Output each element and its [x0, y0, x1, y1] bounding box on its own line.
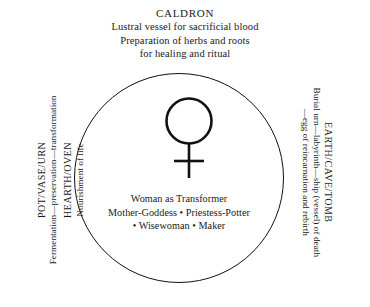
right-axis-sub-egg-rebirth: —egg of reincarnation and rebirth [300, 67, 311, 277]
right-axis-label: EARTH/CAVE/TOMB Burial urn—labyrinth—shi… [300, 67, 335, 277]
venus-symbol [160, 96, 218, 180]
top-caption-line-3: for healing and ritual [0, 47, 370, 60]
left-axis-title-pot: POT/VASE/URN [36, 75, 48, 285]
left-axis-sub-fermentation: Fermentation—preservation—transformation [48, 75, 59, 285]
left-axis-label: POT/VASE/URN Fermentation—preservation—t… [36, 75, 86, 285]
center-caption-block: Woman as Transformer Mother-Goddess • Pr… [74, 192, 284, 233]
left-axis-sub-nourishment: Nourishment of life [75, 75, 86, 285]
top-caption-line-2: Preparation of herbs and roots [0, 34, 370, 47]
center-line-2: Mother-Goddess • Priestess-Potter [74, 206, 284, 220]
venus-symbol-icon [160, 96, 218, 180]
top-caption-line-1: Lustral vessel for sacrificial blood [0, 20, 370, 33]
diagram-canvas: CALDRON Lustral vessel for sacrificial b… [0, 0, 370, 307]
center-line-3: • Wisewoman • Maker [74, 219, 284, 233]
center-line-1: Woman as Transformer [74, 192, 284, 206]
top-heading-block: CALDRON Lustral vessel for sacrificial b… [0, 6, 370, 60]
right-axis-sub-burial-urn: Burial urn—labyrinth—ship (vessel) of de… [311, 67, 322, 277]
diagram-title: CALDRON [0, 6, 370, 20]
right-axis-title-earth: EARTH/CAVE/TOMB [322, 67, 334, 277]
left-axis-title-hearth: HEARTH/OVEN [63, 75, 75, 285]
